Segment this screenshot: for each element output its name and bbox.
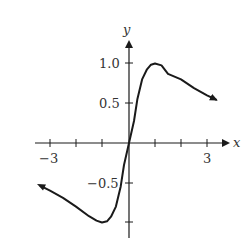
x-tick-label-neg3: −3 (39, 151, 58, 166)
y-tick-label-05: 0.5 (99, 96, 120, 111)
x-axis-label: x (233, 135, 241, 150)
y-axis-label: y (122, 22, 131, 37)
y-tick-label-1: 1.0 (99, 56, 120, 71)
y-tick-label-neg05: −0.5 (87, 176, 119, 191)
x-tick-label-3: 3 (203, 151, 211, 166)
function-plot: y x −3 3 1.0 0.5 −0.5 (0, 0, 250, 251)
